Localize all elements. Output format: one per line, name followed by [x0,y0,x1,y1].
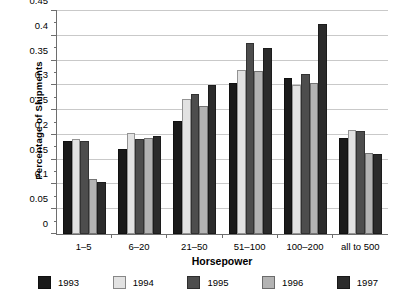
bar [301,74,310,234]
legend-swatch [113,276,126,289]
bar [292,85,301,234]
bar-group [333,11,388,234]
bar [284,78,293,234]
bar [318,24,327,234]
bar [263,48,272,234]
y-tick-label: 0 [43,218,48,229]
x-tick-mark [222,234,223,238]
bar [127,133,136,234]
y-tick-label: 0.35 [30,44,49,55]
bar-group [112,11,167,234]
legend-label: 1994 [133,277,154,288]
bar [144,138,153,234]
legend-label: 1995 [207,277,228,288]
y-tick-label: 0.05 [30,193,49,204]
bar [97,182,106,234]
bar [63,141,72,234]
bar [246,43,255,234]
bar [373,154,382,234]
y-tick-label: 0.2 [35,118,48,129]
legend-item-1993: 1993 [38,276,79,289]
x-axis-title: Horsepower [56,255,388,267]
bar [135,139,144,234]
bar [80,141,89,234]
x-tick-label: 100–200 [277,241,332,252]
bar-groups [57,11,388,234]
bar [153,136,162,234]
bar-group [223,11,278,234]
legend-label: 1996 [282,277,303,288]
x-tick-mark [277,234,278,238]
legend-label: 1997 [357,277,378,288]
x-tick-label: 21–50 [167,241,222,252]
x-tick-mark [166,234,167,238]
bar [365,153,374,234]
bar-group [278,11,333,234]
y-tick-label: 0.45 [30,0,49,6]
bar-chart: Percentage of Shipments 00.050.10.150.20… [0,0,397,303]
legend: 19931994199519961997 [38,276,378,289]
legend-swatch [262,276,275,289]
legend-swatch [337,276,350,289]
bar [237,70,246,234]
x-tick-mark [111,234,112,238]
y-tick-label: 0.1 [35,168,48,179]
plot-area: 00.050.10.150.20.250.30.350.40.45 [56,11,388,235]
y-tick-label: 0.4 [35,19,48,30]
y-tick-label: 0.3 [35,69,48,80]
bar [191,94,200,234]
y-tick-label: 0.25 [30,94,49,105]
bar [348,130,357,234]
legend-item-1994: 1994 [113,276,154,289]
bar [356,131,365,234]
bar [229,83,238,234]
bar [254,71,263,234]
bar [208,85,217,234]
x-tick-label: all to 500 [333,241,388,252]
x-tick-label: 1–5 [56,241,111,252]
bar [339,138,348,234]
legend-item-1997: 1997 [337,276,378,289]
x-tick-label: 51–100 [222,241,277,252]
bar-group [167,11,222,234]
bar [173,121,182,234]
bar [310,83,319,234]
x-tick-label: 6–20 [111,241,166,252]
legend-swatch [38,276,51,289]
legend-item-1996: 1996 [262,276,303,289]
bar [118,149,127,234]
x-axis-tick-labels: 1–56–2021–5051–100100–200all to 500 [56,241,388,252]
bar [72,139,81,234]
y-tick-label: 0.15 [30,143,49,154]
legend-item-1995: 1995 [187,276,228,289]
bar [89,179,98,234]
legend-swatch [187,276,200,289]
legend-label: 1993 [58,277,79,288]
bar [182,99,191,234]
bar [199,106,208,234]
bar-group [57,11,112,234]
x-tick-mark [332,234,333,238]
